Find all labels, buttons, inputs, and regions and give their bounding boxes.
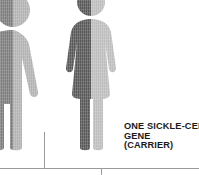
sickle-cell-carrier-illustration: ONE SICKLE-CELL GENE (CARRIER): [0, 0, 199, 175]
male-body-fill: [0, 0, 56, 152]
caption-line-3: (CARRIER): [124, 141, 199, 151]
male-left-half: [0, 0, 13, 152]
column-divider-left: [44, 132, 45, 168]
male-pictogram: [0, 0, 56, 152]
female-body-fill: [63, 0, 119, 154]
male-pictogram-svg: [0, 0, 56, 152]
axis-baseline: [0, 168, 199, 169]
male-right-half: [13, 0, 56, 152]
female-left-half: [63, 0, 91, 154]
female-pictogram: [63, 0, 119, 154]
female-right-half: [91, 0, 119, 154]
female-pictogram-svg: [63, 0, 119, 154]
caption-block: ONE SICKLE-CELL GENE (CARRIER): [124, 122, 199, 151]
axis-tick: [101, 168, 102, 175]
